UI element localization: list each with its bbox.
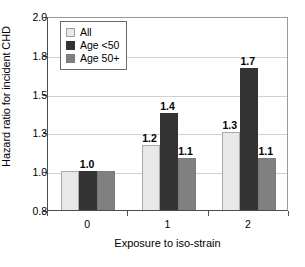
bar-value-label: 1.1 [178,145,193,157]
bar-value-label: 1.0 [80,158,95,170]
y-axis-ticks: 2.01.81.51.31.00.8 [12,17,47,211]
x-tick-mark [288,211,289,216]
legend-label: All [80,26,92,39]
y-tick-label: 1.5 [21,89,47,101]
legend-item: All [66,26,119,39]
x-tick-mark [208,211,209,216]
bar-value-label: 1.3 [223,119,238,131]
bar-value-label: 1.2 [142,132,157,144]
legend-item: Age 50+ [66,52,119,65]
bar [79,171,97,210]
bar [160,113,178,210]
x-tick-label: 1 [165,218,171,230]
y-tick-label: 1.3 [21,127,47,139]
legend: AllAge <50Age 50+ [60,21,127,70]
bar-value-label: 1.4 [160,100,175,112]
legend-swatch-icon [66,28,75,37]
bar [222,132,240,210]
x-tick-label: 0 [84,218,90,230]
y-tick-label: 1.8 [21,50,47,62]
bar [61,171,79,210]
bar [97,171,115,210]
bar [240,68,258,210]
bar [178,158,196,210]
bar [142,145,160,210]
hazard-ratio-bar-chart: Hazard ratio for incident CHD 2.01.81.51… [0,0,305,267]
x-tick-mark [127,211,128,216]
legend-label: Age 50+ [80,52,119,65]
x-tick-mark [47,211,48,216]
bar [258,158,276,210]
y-tick-label: 1.0 [21,166,47,178]
x-axis-title: Exposure to iso-strain [47,237,288,249]
bar-value-label: 1.7 [241,55,256,67]
legend-item: Age <50 [66,39,119,52]
legend-swatch-icon [66,41,75,50]
x-tick-label: 2 [245,218,251,230]
legend-label: Age <50 [80,39,119,52]
y-tick-label: 2.0 [21,11,47,23]
bar-value-label: 1.1 [259,145,274,157]
y-tick-label: 0.8 [21,205,47,217]
legend-swatch-icon [66,54,75,63]
